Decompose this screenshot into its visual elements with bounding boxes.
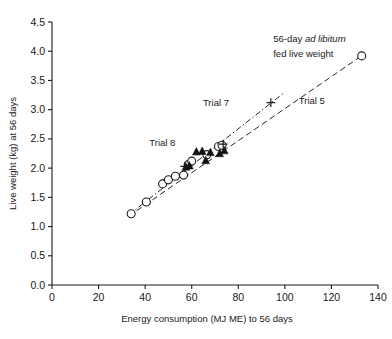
y-tick-label: 0.0: [30, 279, 45, 291]
y-tick-label: 3.5: [30, 74, 45, 86]
y-tick-label: 1.5: [30, 191, 45, 203]
x-tick-label: 20: [93, 291, 105, 303]
x-tick-label: 120: [323, 291, 341, 303]
data-point-open-circle: [171, 172, 179, 180]
y-tick-label: 0.5: [30, 249, 45, 261]
y-tick-label: 1.0: [30, 220, 45, 232]
data-point-open-circle: [180, 171, 188, 179]
y-tick-label: 2.0: [30, 162, 45, 174]
chart-svg: 0.00.51.01.52.02.53.03.54.04.50204060801…: [0, 0, 392, 339]
x-tick-label: 100: [276, 291, 294, 303]
y-tick-label: 4.5: [30, 16, 45, 28]
x-tick-label: 140: [369, 291, 387, 303]
x-tick-label: 0: [49, 291, 55, 303]
y-axis-title: Live weight (kg) at 56 days: [7, 97, 18, 210]
x-axis-title: Energy consumption (MJ ME) to 56 days: [121, 313, 293, 324]
y-tick-label: 4.0: [30, 45, 45, 57]
scatter-plot-figure: 0.00.51.01.52.02.53.03.54.04.50204060801…: [0, 0, 392, 339]
data-point-open-circle: [358, 52, 366, 60]
x-tick-label: 60: [186, 291, 198, 303]
trend-line-trial-5: [129, 54, 364, 216]
trial-7-label: Trial 7: [203, 97, 229, 108]
trial-8-label: Trial 8: [149, 137, 175, 148]
x-tick-label: 80: [232, 291, 244, 303]
y-tick-label: 2.5: [30, 132, 45, 144]
trial-5-label: Trial 5: [299, 95, 325, 106]
ad-libitum-note-line1: 56-day ad libitum: [273, 33, 345, 44]
data-point-open-circle: [127, 210, 135, 218]
y-tick-label: 3.0: [30, 103, 45, 115]
data-point-open-circle: [142, 198, 150, 206]
x-tick-label: 40: [139, 291, 151, 303]
ad-libitum-note-line2: fed live weight: [273, 48, 334, 59]
